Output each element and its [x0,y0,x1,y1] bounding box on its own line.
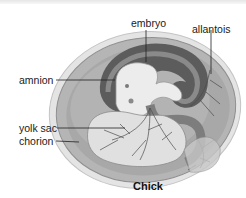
label-yolk-sac: yolk sac [19,122,57,134]
yolk-sac [88,111,187,166]
label-allantois: allantois [192,23,231,35]
label-embryo: embryo [131,17,166,29]
label-chorion: chorion [19,135,53,147]
figure-caption: Chick [133,180,163,192]
label-amnion: amnion [19,74,53,86]
